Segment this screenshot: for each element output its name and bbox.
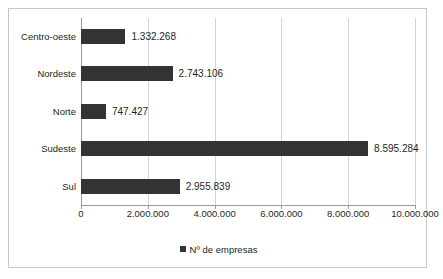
axis-tick-label: 10.000.000: [370, 208, 443, 219]
bar-row: Nordeste2.743.106: [81, 55, 415, 92]
bar-value-label: 2.955.839: [186, 179, 231, 194]
bar-row: Norte747.427: [81, 93, 415, 130]
bar-value-label: 2.743.106: [179, 66, 224, 81]
bar-row: Sudeste8.595.284: [81, 130, 415, 167]
bar[interactable]: [81, 141, 368, 156]
category-label: Nordeste: [37, 66, 76, 81]
bar-row: Centro-oeste1.332.268: [81, 18, 415, 55]
bar[interactable]: [81, 29, 125, 44]
bar-row: Sul2.955.839: [81, 168, 415, 205]
legend-swatch-icon: [180, 246, 186, 252]
legend-label: Nº de empresas: [190, 244, 258, 255]
bar-value-label: 8.595.284: [374, 141, 419, 156]
bar-value-label: 1.332.268: [131, 29, 176, 44]
category-label: Centro-oeste: [21, 29, 76, 44]
category-label: Norte: [53, 104, 76, 119]
bar[interactable]: [81, 66, 173, 81]
category-label: Sudeste: [41, 141, 76, 156]
gridline: [415, 18, 416, 205]
bar[interactable]: [81, 104, 106, 119]
chart-legend: Nº de empresas: [0, 243, 437, 255]
plot-area: Centro-oeste1.332.268Nordeste2.743.106No…: [81, 18, 415, 205]
category-label: Sul: [62, 179, 76, 194]
bar-value-label: 747.427: [112, 104, 148, 119]
value-axis-line: [81, 205, 415, 206]
bar[interactable]: [81, 179, 180, 194]
